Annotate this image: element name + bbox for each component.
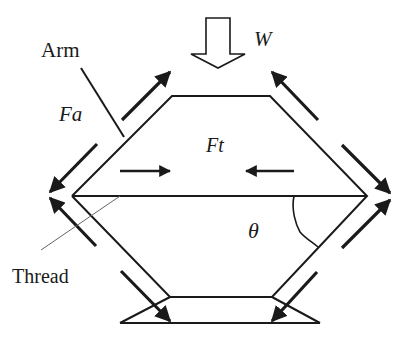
arm-label: Arm (41, 40, 80, 61)
fa-label: Fa (59, 104, 82, 125)
arm-pointer-line (81, 68, 124, 137)
thread-label: Thread (12, 266, 69, 286)
ft-label: Ft (206, 135, 224, 155)
angle-theta-arc (293, 196, 318, 247)
arm-force-diagram: Arm Fa W Ft θ Thread (0, 0, 402, 337)
w-label: W (254, 29, 272, 50)
theta-label: θ (248, 220, 259, 242)
load-arrow-icon (191, 18, 245, 68)
